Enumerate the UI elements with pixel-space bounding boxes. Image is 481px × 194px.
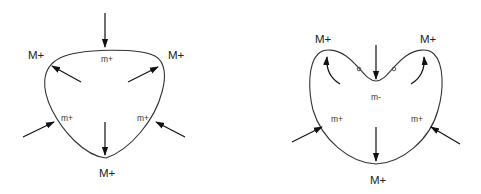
right-curved-up-left-arrow-icon (327, 57, 340, 84)
left-inner-up-left-arrow-icon (52, 66, 81, 82)
right-vertex-top-left-label: M+ (315, 33, 332, 45)
left-inner-up-right-arrow-icon (128, 67, 158, 82)
right-vertex-bottom-label: M+ (370, 174, 387, 186)
right-shape: M+ M+ M+ m- m+ m+ (292, 33, 460, 186)
curvature-extrema-diagram: M+ M+ M+ m+ m+ m+ M+ M+ M+ m- m+ m+ (0, 0, 481, 194)
right-side-left-label: m+ (331, 114, 343, 124)
right-curved-up-right-arrow-icon (411, 57, 424, 84)
left-side-right-label: m+ (137, 113, 149, 123)
left-shape: M+ M+ M+ m+ m+ m+ (23, 13, 185, 179)
right-vertex-top-right-label: M+ (420, 33, 437, 45)
left-vertex-top-right-label: M+ (168, 49, 185, 61)
right-side-inward-arrow-icon (156, 122, 185, 137)
left-vertex-top-left-label: M+ (28, 49, 45, 61)
right-right-side-inward-arrow-icon (431, 127, 460, 144)
right-side-right-label: m+ (411, 114, 423, 124)
right-left-side-inward-arrow-icon (292, 127, 322, 142)
left-vertex-bottom-label: M+ (99, 167, 116, 179)
right-dip-center-label: m- (371, 92, 381, 102)
left-side-inward-arrow-icon (23, 122, 54, 137)
left-side-left-label: m+ (61, 113, 73, 123)
left-side-top-label: m+ (101, 54, 113, 64)
